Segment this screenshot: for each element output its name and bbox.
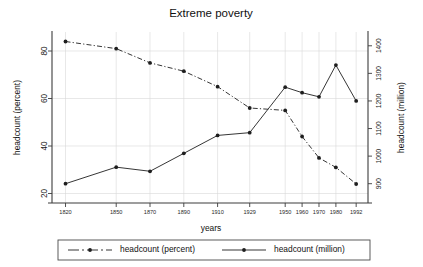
data-point-marker xyxy=(114,47,118,51)
extreme-poverty-line-chart: Extreme poverty 20406080 900100011001200… xyxy=(0,0,423,267)
y-axis-right-tick-label: 1100 xyxy=(375,121,382,136)
y-axis-right-tick-label: 1000 xyxy=(375,148,382,163)
data-point-marker xyxy=(334,63,338,67)
y-axis-left-tick-label: 80 xyxy=(40,46,49,56)
x-axis-tick-label: 1850 xyxy=(110,209,122,215)
x-axis-tick-label: 1950 xyxy=(279,209,291,215)
data-point-marker xyxy=(248,106,252,110)
y-axis-right-tick-label: 1400 xyxy=(375,38,382,53)
data-point-marker xyxy=(216,134,220,138)
data-series-layer xyxy=(64,40,358,186)
x-axis-title: years xyxy=(201,223,221,233)
y-axis-right-tick-label: 900 xyxy=(375,178,382,189)
series-line-1 xyxy=(66,42,357,185)
legend-marker-2 xyxy=(242,248,246,252)
data-point-marker xyxy=(148,61,152,65)
data-point-marker xyxy=(248,131,252,135)
data-point-marker xyxy=(317,156,321,160)
y-axis-left-tick-label: 40 xyxy=(40,141,49,151)
y-axis-left-ticks: 20406080 xyxy=(40,46,52,198)
y-axis-right-tick-label: 1200 xyxy=(375,93,382,108)
data-point-marker xyxy=(317,95,321,99)
data-point-marker xyxy=(148,169,152,173)
data-point-marker xyxy=(334,165,338,169)
x-axis-ticks: 1820185018701890191019291950196019701980… xyxy=(59,203,362,215)
chart-container: Extreme poverty 20406080 900100011001200… xyxy=(0,0,423,267)
y-axis-left-tick-label: 60 xyxy=(40,94,49,104)
x-axis-tick-label: 1929 xyxy=(243,209,255,215)
data-point-marker xyxy=(64,182,68,186)
x-axis-tick-label: 1970 xyxy=(313,209,325,215)
data-point-marker xyxy=(182,69,186,73)
data-point-marker xyxy=(300,91,304,95)
data-point-marker xyxy=(283,85,287,89)
legend-label-2: headcount (million) xyxy=(274,244,345,254)
chart-title: Extreme poverty xyxy=(169,7,253,19)
x-axis-tick-label: 1870 xyxy=(144,209,156,215)
x-axis-tick-label: 1980 xyxy=(330,209,342,215)
data-point-marker xyxy=(300,135,304,139)
x-axis-tick-label: 1890 xyxy=(178,209,190,215)
legend-label-1: headcount (percent) xyxy=(120,244,195,254)
data-point-marker xyxy=(354,182,358,186)
data-point-marker xyxy=(283,108,287,112)
legend-marker-1 xyxy=(88,248,92,252)
y-axis-right-ticks: 90010001100120013001400 xyxy=(368,38,382,189)
data-point-marker xyxy=(216,85,220,89)
y-axis-right-tick-label: 1300 xyxy=(375,66,382,81)
x-axis-tick-label: 1960 xyxy=(296,209,308,215)
y-axis-left-title: headcount (percent) xyxy=(12,80,22,155)
chart-legend: headcount (percent)headcount (million) xyxy=(58,240,370,260)
data-point-marker xyxy=(64,40,68,44)
x-axis-tick-label: 1910 xyxy=(211,209,223,215)
grid-lines xyxy=(52,32,368,203)
y-axis-left-tick-label: 20 xyxy=(40,189,49,199)
data-point-marker xyxy=(182,151,186,155)
x-axis-tick-label: 1820 xyxy=(59,209,71,215)
data-point-marker xyxy=(354,99,358,103)
data-point-marker xyxy=(114,165,118,169)
y-axis-right-title: headcount (million) xyxy=(396,82,406,153)
series-line-2 xyxy=(66,65,357,184)
plot-frame xyxy=(48,31,372,203)
x-axis-tick-label: 1992 xyxy=(350,209,362,215)
